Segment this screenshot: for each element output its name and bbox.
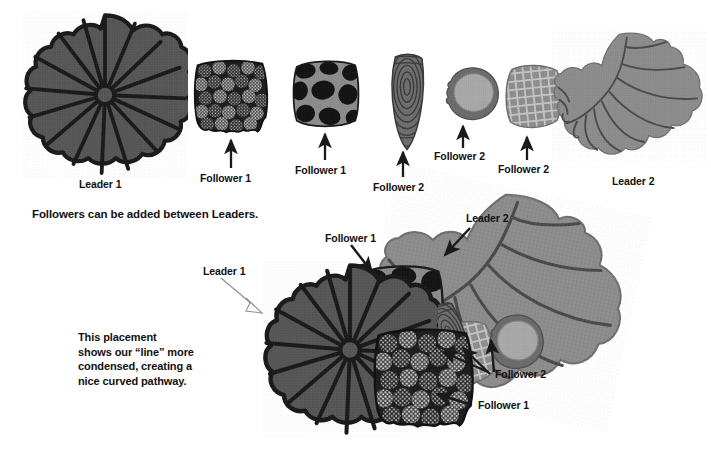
- callout-label-follower-2: Follower 2: [495, 368, 546, 380]
- condensed-composition: [262, 164, 652, 438]
- caption-followers-between-leaders: Followers can be added between Leaders.: [32, 208, 258, 220]
- label-follower-1-blobs: Follower 1: [295, 164, 346, 176]
- specimen-leader-1-rosette: [22, 12, 195, 178]
- composition-follower-2-disc: [489, 315, 543, 368]
- specimen-follower-1-scales: [192, 58, 272, 138]
- composition-paragraph: This placement shows our “line” more con…: [78, 330, 194, 388]
- callout-label-leader-2: Leader 2: [466, 212, 508, 224]
- paragraph-line-1: This placement: [78, 330, 194, 345]
- specimen-leader-2-leaf: [552, 30, 708, 163]
- callout-label-leader-1: Leader 1: [203, 265, 245, 277]
- diagram-page: Leader 1 Follower 1 Follower 1 Follower …: [0, 0, 711, 454]
- specimen-follower-2-disc: [446, 68, 498, 120]
- label-leader-1: Leader 1: [79, 178, 121, 190]
- callout-label-follower-1-bottom: Follower 1: [478, 399, 529, 411]
- specimen-follower-1-blobs: [290, 58, 363, 131]
- paragraph-line-4: nice curved pathway.: [78, 374, 194, 389]
- specimen-follower-2-cone: [382, 39, 432, 152]
- paragraph-line-3: condensed, creating a: [78, 359, 194, 374]
- label-leader-2: Leader 2: [612, 175, 654, 187]
- callout-label-follower-1-top: Follower 1: [325, 232, 376, 244]
- label-follower-2-grid: Follower 2: [498, 163, 549, 175]
- label-follower-1-scales: Follower 1: [200, 172, 251, 184]
- label-follower-2-cone: Follower 2: [373, 181, 424, 193]
- label-follower-2-disc: Follower 2: [434, 150, 485, 162]
- composition-follower-1-scales: [371, 326, 479, 434]
- paragraph-line-2: shows our “line” more: [78, 345, 194, 360]
